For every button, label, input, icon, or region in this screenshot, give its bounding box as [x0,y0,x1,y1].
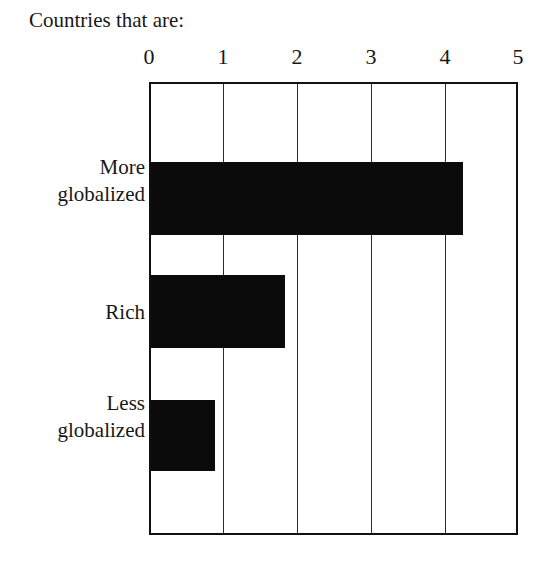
x-tick-label-2: 2 [277,44,317,70]
y-axis-category-labels: More globalized Rich Less globalized [0,82,145,535]
category-label-line: globalized [0,417,145,444]
bar-more-globalized [151,162,463,235]
x-tick-label-4: 4 [425,44,465,70]
bars-layer [151,84,516,533]
x-tick-label-3: 3 [351,44,391,70]
plot-area [149,82,518,535]
category-label-line: Less [0,390,145,417]
x-tick-label-0: 0 [129,44,169,70]
x-tick-label-1: 1 [203,44,243,70]
category-label-line: More [0,154,145,181]
x-axis-tick-labels: 0 1 2 3 4 5 [0,44,549,74]
category-label-more-globalized: More globalized [0,154,145,208]
category-label-less-globalized: Less globalized [0,390,145,444]
bar-less-globalized [151,400,215,471]
category-label-line: Rich [0,299,145,326]
bar-rich [151,275,285,348]
x-tick-label-5: 5 [498,44,538,70]
chart-title: Countries that are: [29,8,184,32]
category-label-line: globalized [0,181,145,208]
category-label-rich: Rich [0,299,145,326]
